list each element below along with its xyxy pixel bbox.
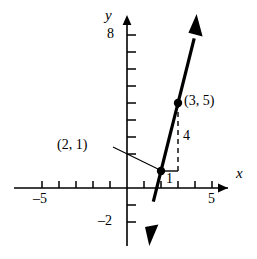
x-axis-label: x [236,166,243,181]
rise-length-label: 4 [183,129,190,143]
graph-figure: y x 8 –2 –5 5 1 4 (2, 1) (3, 5) [0,0,257,259]
y-tick-label-8: 8 [107,27,114,41]
x-tick-label-5: 5 [208,192,215,206]
point-a-leader-line [113,147,160,170]
plotted-line [153,38,194,201]
run-length-label: 1 [166,172,173,186]
y-axis-label: y [105,8,112,23]
y-axis-ticks [127,35,136,222]
y-axis-arrowhead-icon [123,15,132,25]
y-axis-group [123,15,136,246]
line-upper-arrowhead-icon [188,14,202,36]
y-tick-label-negative-2: –2 [98,214,112,228]
x-tick-label-negative-5: –5 [33,192,47,206]
data-point-3-5[interactable] [174,99,182,107]
line-lower-arrowhead-icon [145,224,158,246]
plotted-line-group [145,14,203,246]
point-label-2-1: (2, 1) [57,138,87,152]
x-axis-arrowhead-icon [218,184,228,193]
coordinate-plane-svg [0,0,257,259]
point-label-3-5: (3, 5) [184,94,214,108]
data-point-2-1[interactable] [157,167,165,175]
